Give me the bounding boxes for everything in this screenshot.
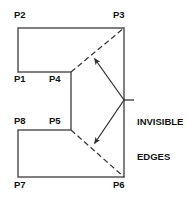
invisible-edges-figure: P2 P3 P1 P4 P8 P5 P7 P6 INVISIBLE EDGES (0, 0, 187, 198)
hidden-edge-p4-p3 (71, 28, 124, 72)
vertex-label-p3: P3 (113, 10, 125, 20)
part-outline-path (18, 28, 124, 177)
leader-line-lower (95, 100, 125, 144)
vertex-label-p4: P4 (49, 74, 61, 84)
visible-outline (18, 28, 124, 177)
callout-leader-lines (95, 59, 135, 144)
vertex-label-p8: P8 (14, 116, 26, 126)
hidden-edge-p5-p6 (71, 130, 124, 177)
vertex-label-p2: P2 (14, 10, 26, 20)
callout-invisible-edges: INVISIBLE EDGES (137, 92, 183, 187)
vertex-label-p5: P5 (49, 116, 61, 126)
callout-line-2: EDGES (137, 151, 183, 163)
callout-line-1: INVISIBLE (137, 116, 183, 128)
hidden-edges (71, 28, 124, 177)
vertex-label-p6: P6 (113, 180, 125, 190)
vertex-label-p1: P1 (14, 74, 26, 84)
vertex-label-p7: P7 (14, 180, 26, 190)
leader-line-upper (95, 59, 125, 101)
